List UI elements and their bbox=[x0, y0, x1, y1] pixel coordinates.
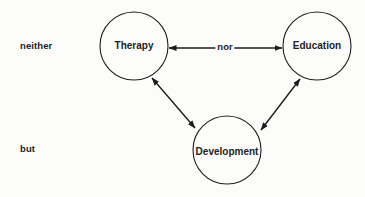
but-label: but bbox=[20, 144, 35, 154]
neither-label: neither bbox=[20, 41, 52, 51]
diagram-canvas bbox=[0, 0, 365, 197]
education-node-label: Education bbox=[293, 41, 341, 51]
therapy-node-label: Therapy bbox=[115, 41, 154, 51]
therapy-development-arrow bbox=[152, 78, 195, 128]
education-development-arrow bbox=[261, 79, 300, 130]
development-node-label: Development bbox=[196, 147, 259, 157]
nor-edge-label: nor bbox=[215, 42, 234, 52]
